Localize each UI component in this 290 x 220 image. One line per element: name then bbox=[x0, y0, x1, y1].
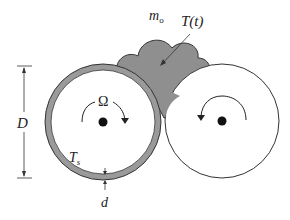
thickness-arrow-bottom bbox=[103, 180, 107, 184]
diameter-arrow-up bbox=[22, 67, 26, 73]
right-axle-icon bbox=[218, 117, 227, 126]
omega-label: Ω bbox=[98, 94, 108, 109]
left-axle-icon bbox=[99, 118, 108, 127]
diameter-label: D bbox=[16, 115, 28, 131]
diameter-arrow-down bbox=[22, 171, 26, 177]
diagram-canvas: mo T(t) Ω D Ts d bbox=[0, 0, 290, 220]
thickness-label: d bbox=[101, 195, 109, 210]
temperature-label: T(t) bbox=[181, 13, 204, 30]
mass-label: mo bbox=[149, 8, 164, 25]
